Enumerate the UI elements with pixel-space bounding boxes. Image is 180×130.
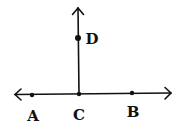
label-a: A [26,107,39,125]
ray-cd [73,8,84,94]
point-a [30,93,34,97]
point-c [77,92,81,96]
point-b [130,91,134,95]
label-b: B [127,103,140,121]
geometry-diagram: A C B D [0,0,180,130]
label-d: D [85,30,98,48]
label-c: C [73,106,85,124]
line-ab [15,88,171,101]
point-d [75,35,81,41]
